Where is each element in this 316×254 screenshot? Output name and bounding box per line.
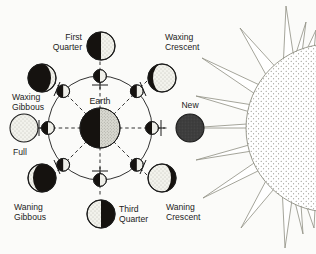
phase-label-waxing-gibbous-line1: Waxing	[12, 92, 41, 102]
phase-label-waxing-crescent-line2: Crescent	[165, 42, 200, 52]
phase-waning-crescent	[148, 164, 176, 192]
phase-label-waning-crescent-line1: Waning	[166, 202, 195, 212]
orbit-moon-waning-crescent	[130, 158, 146, 174]
sun-graphic	[188, 6, 316, 248]
orbit-moon-new	[146, 120, 165, 136]
phase-label-waning-gibbous-line1: Waning	[14, 202, 43, 212]
earth-label: Earth	[89, 96, 110, 106]
phase-label-waning-crescent-line2: Crescent	[166, 212, 201, 222]
phase-full	[10, 114, 38, 142]
orbit-moon-waxing-gibbous	[54, 82, 70, 98]
phase-label-first-quarter-line1: First	[65, 32, 82, 42]
phase-label-new: New	[181, 100, 199, 110]
moon-phase-diagram: Earth	[0, 0, 316, 254]
phase-label-waxing-crescent-line1: Waxing	[165, 32, 194, 42]
phase-first-quarter	[87, 32, 115, 60]
orbit-moon-waning-gibbous	[54, 158, 70, 174]
phase-label-first-quarter-line2: Quarter	[53, 42, 82, 52]
orbit-moon-waxing-crescent	[130, 82, 146, 98]
phase-label-waxing-gibbous-line2: Gibbous	[12, 102, 44, 112]
phase-waxing-crescent	[148, 64, 176, 92]
orbit-moon-third-quarter	[92, 167, 108, 186]
phase-waxing-gibbous	[28, 64, 56, 92]
phase-label-third-quarter-line1: Third	[119, 204, 139, 214]
phase-third-quarter	[87, 200, 115, 228]
earth-body	[80, 108, 120, 148]
phase-label-waning-gibbous-line2: Gibbous	[14, 212, 46, 222]
diagram-canvas: Earth	[0, 0, 316, 254]
sun-body	[246, 44, 316, 212]
phase-new	[176, 114, 204, 142]
phase-label-third-quarter-line2: Quarter	[119, 214, 148, 224]
orbit-moon-first-quarter	[92, 70, 108, 89]
phase-label-full: Full	[13, 147, 27, 157]
phase-waning-gibbous	[28, 164, 56, 192]
